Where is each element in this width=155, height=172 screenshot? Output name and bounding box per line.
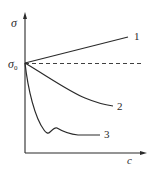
y-axis-label: σ xyxy=(11,17,17,29)
sigma-vs-c-diagram: σ σ0 1 2 3 c xyxy=(0,0,155,172)
curve-1 xyxy=(25,37,128,63)
x-axis-arrow-icon xyxy=(140,151,147,155)
curve-3-label: 3 xyxy=(104,129,110,140)
curve-2-label: 2 xyxy=(117,101,123,112)
sigma0-label-subscript: 0 xyxy=(14,64,18,72)
sigma0-label: σ0 xyxy=(8,58,17,72)
diagram-graphics xyxy=(0,0,155,172)
x-axis-label: c xyxy=(127,155,132,166)
curve-1-label: 1 xyxy=(134,31,140,42)
curve-2 xyxy=(25,63,113,106)
y-axis-arrow-icon xyxy=(23,12,27,19)
